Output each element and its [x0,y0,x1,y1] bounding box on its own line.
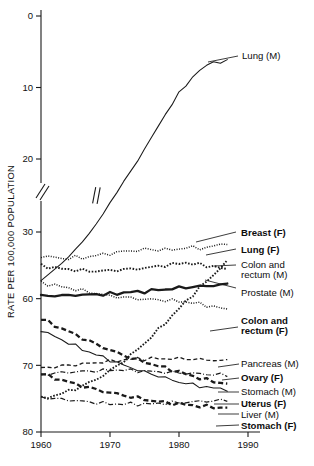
axis-break-group [35,183,106,207]
y-tick-label: 10 [22,82,33,93]
label-leader-line [210,327,238,331]
series-label-uterus-f: Uterus (F) [241,398,286,409]
x-tick-label: 1970 [99,439,120,450]
series-label-breast-f: Breast (F) [241,227,286,238]
series-label-liver-m: Liver (M) [241,409,279,420]
label-leader-line [222,378,239,380]
cancer-mortality-rate-chart: RATE PER 100,000 POPULATION 807060302010… [0,0,314,466]
series-line [41,357,227,368]
axes-group: 80706030201001960197019801990 [22,10,260,450]
series-line [41,369,227,377]
y-tick-label: 70 [22,360,33,371]
label-leader-line [216,425,239,426]
y-tick-label: 30 [22,226,33,237]
series-line [41,396,227,406]
series-line [41,260,227,398]
series-line [41,332,227,392]
series-line [41,284,227,297]
series-line [41,263,227,272]
series-label-lung-f: Lung (F) [241,244,279,255]
y-tick-label: 60 [22,293,33,304]
label-leader-line [218,364,239,367]
series-group [41,60,227,409]
x-tick-label: 1980 [168,439,189,450]
label-leader-line [208,56,238,62]
series-label-stomach-m: Stomach (M) [241,386,296,397]
series-label-ovary-f: Ovary (F) [241,372,283,383]
series-label-pancreas-m: Pancreas (M) [241,358,299,369]
x-tick-label: 1960 [30,439,51,450]
y-axis-title: RATE PER 100,000 POPULATION [5,165,16,318]
label-leader-line [206,249,236,255]
series-label-stomach-f: Stomach (F) [241,420,296,431]
label-leader-line [214,265,236,266]
x-tick-label: 1990 [237,439,258,450]
series-label-colon-rectum-f-line2: rectum (F) [241,325,288,336]
axis-break-mark [35,183,49,201]
y-tick-label: 0 [28,10,33,21]
series-line [41,320,227,384]
label-leader-line [196,232,236,242]
y-tick-label: 80 [22,426,33,437]
axis-break-mark [86,185,106,207]
chart-svg: RATE PER 100,000 POPULATION 807060302010… [0,0,314,466]
series-labels-group: Lung (M)Breast (F)Lung (F)Colon andrectu… [241,50,299,431]
series-label-prostate-m: Prostate (M) [241,287,294,298]
series-label-colon-rectum-m-line2: rectum (M) [241,269,287,280]
leader-lines-group [196,56,239,426]
series-line [41,60,227,281]
y-tick-label: 20 [22,153,33,164]
series-label-lung-m: Lung (M) [242,50,280,61]
